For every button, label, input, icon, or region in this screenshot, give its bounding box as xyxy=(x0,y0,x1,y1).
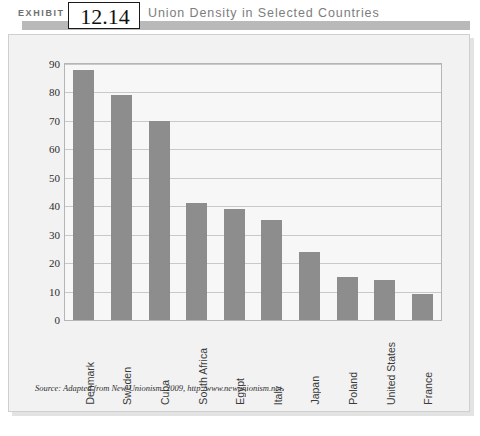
y-tick-label: 0 xyxy=(30,314,60,326)
bar xyxy=(73,70,94,320)
exhibit-number-box: 12.14 xyxy=(68,2,140,29)
y-tick-label: 40 xyxy=(30,200,60,212)
y-tick-label: 80 xyxy=(30,86,60,98)
exhibit-number: 12.14 xyxy=(69,3,141,30)
y-tick-label: 50 xyxy=(30,172,60,184)
plot-area xyxy=(64,63,442,321)
bar xyxy=(412,294,433,320)
bar xyxy=(337,277,358,320)
bar-series xyxy=(65,64,441,320)
bar xyxy=(299,252,320,320)
bar xyxy=(224,209,245,320)
y-tick-label: 60 xyxy=(30,143,60,155)
y-tick-label: 30 xyxy=(30,229,60,241)
x-tick-label: Poland xyxy=(347,372,359,405)
exhibit-header: EXHIBIT 12.14 Union Density in Selected … xyxy=(0,0,480,34)
bar xyxy=(374,280,395,320)
y-axis: 0102030405060708090 xyxy=(27,63,60,321)
source-note: Source: Adapted from New Unionism. 2009,… xyxy=(35,383,284,393)
y-tick-label: 70 xyxy=(30,115,60,127)
x-tick-label: Japan xyxy=(309,376,321,405)
panel-shadow-bottom xyxy=(12,412,474,416)
y-tick-label: 90 xyxy=(30,58,60,70)
bar xyxy=(261,220,282,320)
y-tick-label: 20 xyxy=(30,257,60,269)
y-tick-label: 10 xyxy=(30,286,60,298)
panel-shadow-right xyxy=(470,38,474,416)
exhibit-label: EXHIBIT xyxy=(18,8,65,18)
exhibit-title: Union Density in Selected Countries xyxy=(148,6,380,20)
x-tick-label: France xyxy=(422,372,434,405)
x-tick-label: South Africa xyxy=(197,348,209,405)
figure-panel: 0102030405060708090 DenmarkSwedenCubaSou… xyxy=(8,34,470,412)
x-tick-label: United States xyxy=(385,342,397,405)
bar xyxy=(186,203,207,320)
bar xyxy=(149,121,170,320)
bar xyxy=(111,95,132,320)
